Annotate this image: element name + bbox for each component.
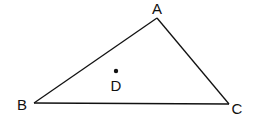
vertex-label-c: C [232,100,243,117]
vertex-label-b: B [17,96,27,113]
point-label-d: D [111,77,122,94]
edge-bc [34,103,229,104]
triangle-diagram: A B C D [0,0,257,120]
edge-ca [157,18,229,104]
point-d-dot [114,69,118,73]
vertex-label-a: A [152,0,162,17]
edge-ab [34,18,157,103]
